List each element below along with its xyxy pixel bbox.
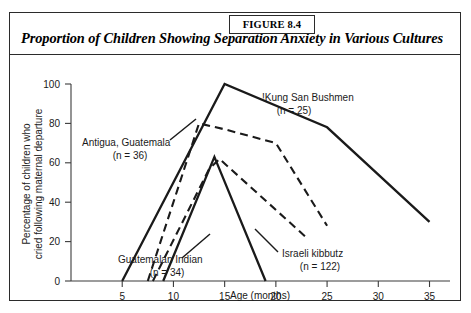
x-tick-label: 15	[219, 291, 231, 301]
separation-anxiety-line-chart: 020406080100 5101520253035 !Kung San Bus…	[10, 56, 462, 301]
x-axis-title: Age (months)	[230, 290, 290, 301]
annotation-israeli-kibbutz: Israeli kibbutz (n = 122)	[282, 248, 343, 272]
x-tick-label: 10	[168, 291, 180, 301]
y-tick-label: 40	[49, 197, 61, 208]
annotation-leader-lines	[170, 119, 278, 258]
figure-card: FIGURE 8.4 Proportion of Children Showin…	[9, 12, 461, 301]
annotation-kung-san: !Kung San Bushmen (n = 25)	[262, 92, 354, 116]
y-tick-label: 60	[49, 157, 61, 168]
chart-axes	[71, 84, 450, 281]
y-tick-label: 20	[49, 236, 61, 247]
y-axis-ticks: 020406080100	[43, 79, 71, 287]
y-tick-label: 100	[43, 79, 60, 90]
leader-line-antigua	[170, 119, 196, 140]
y-axis-title-line2: cried following maternal departure	[33, 108, 44, 259]
annotation-israeli-kibbutz-n: (n = 122)	[300, 261, 340, 272]
figure-number-tag: FIGURE 8.4	[229, 15, 315, 34]
annotation-guatemalan-indian-n: (n = 34)	[150, 267, 185, 278]
annotation-israeli-kibbutz-label: Israeli kibbutz	[282, 248, 343, 259]
chart-plot-area: 020406080100 5101520253035 !Kung San Bus…	[10, 56, 462, 301]
annotation-guatemalan-indian-label: Guatemalan Indian	[118, 254, 203, 265]
annotation-antigua: Antigua, Guatemala (n = 36)	[82, 137, 171, 161]
annotation-antigua-label: Antigua, Guatemala	[82, 137, 171, 148]
annotation-antigua-n: (n = 36)	[113, 150, 148, 161]
annotation-kung-san-n: (n = 25)	[277, 105, 312, 116]
x-tick-label: 35	[424, 291, 436, 301]
x-tick-label: 5	[119, 291, 125, 301]
y-tick-label: 0	[54, 276, 60, 287]
y-tick-label: 80	[49, 118, 61, 129]
leader-line-israeli-kibbutz	[255, 229, 278, 252]
x-tick-label: 25	[322, 291, 334, 301]
page-title: Proportion of Children Showing Separatio…	[10, 30, 443, 47]
y-axis-title-line1: Percentage of children who	[21, 123, 32, 245]
annotation-kung-san-label: !Kung San Bushmen	[262, 92, 354, 103]
x-tick-label: 30	[373, 291, 385, 301]
